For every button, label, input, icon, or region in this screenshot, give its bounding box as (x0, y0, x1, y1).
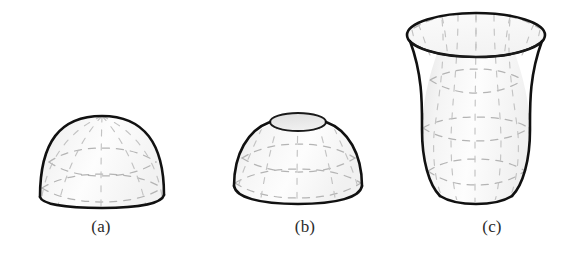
figure-c-svg (390, 8, 562, 212)
caption-b: (b) (260, 216, 350, 238)
figure-plate: (a) (b) (c) (0, 0, 566, 254)
figure-b-dome-open (212, 96, 384, 212)
caption-a: (a) (56, 216, 146, 238)
hyperboloid-c-surface (422, 48, 530, 203)
figure-b-svg (212, 96, 384, 212)
caption-c: (c) (447, 216, 537, 238)
figure-a-dome (8, 96, 194, 212)
figure-c-hyperboloid (390, 8, 562, 212)
figure-a-svg (8, 96, 194, 212)
